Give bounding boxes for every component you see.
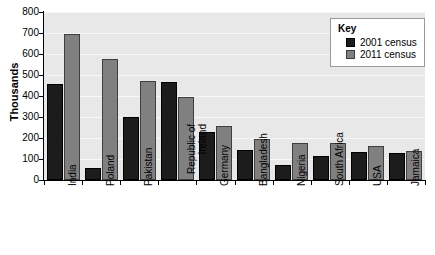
legend-swatch-icon-2001	[346, 38, 355, 47]
x-category-label: India	[67, 164, 78, 186]
bar-chart: Thousands 0100200300400500600700800 Indi…	[0, 0, 435, 255]
legend-swatch-icon-2011	[346, 50, 355, 59]
x-category-label: Germany	[219, 145, 230, 186]
bar	[313, 156, 329, 180]
bar	[85, 168, 101, 180]
x-tick-mark	[158, 181, 159, 185]
x-tick-mark	[425, 181, 426, 185]
legend-item-1: 2011 census	[346, 49, 418, 60]
x-tick-mark	[273, 181, 274, 185]
x-tick-mark	[311, 181, 312, 185]
bar	[123, 117, 139, 180]
x-tick-mark	[120, 181, 121, 185]
bar	[351, 152, 367, 180]
x-category-label: Pakistan	[143, 148, 154, 186]
y-tick-label: 500	[9, 70, 39, 80]
bar	[275, 165, 291, 180]
y-tick-label: 0	[9, 175, 39, 185]
y-tick-label: 700	[9, 28, 39, 38]
x-category-label: Republic of Ireland	[186, 124, 208, 186]
y-tick-label: 200	[9, 133, 39, 143]
x-category-label: South Africa	[334, 132, 345, 186]
y-tick-label: 600	[9, 49, 39, 59]
x-tick-mark	[387, 181, 388, 185]
y-tick-label: 800	[9, 7, 39, 17]
x-category-label: Poland	[105, 155, 116, 186]
x-tick-mark	[82, 181, 83, 185]
y-tick-label: 100	[9, 154, 39, 164]
bar	[47, 84, 63, 180]
x-tick-mark	[349, 181, 350, 185]
legend-label-2001: 2001 census	[360, 37, 417, 48]
x-tick-mark	[44, 181, 45, 185]
legend-item-0: 2001 census	[346, 37, 418, 48]
y-tick-label: 300	[9, 112, 39, 122]
bar	[389, 153, 405, 180]
y-tick-label: 400	[9, 91, 39, 101]
legend-label-2011: 2011 census	[360, 49, 416, 60]
x-tick-mark	[235, 181, 236, 185]
legend: Key 2001 census 2011 census	[330, 18, 425, 67]
bar	[64, 34, 80, 180]
x-category-label: Jamaica	[410, 149, 421, 186]
legend-title: Key	[338, 23, 418, 34]
bar	[237, 150, 253, 180]
bar	[161, 82, 177, 180]
x-category-label: USA	[372, 165, 383, 186]
x-category-label: Bangladesh	[258, 133, 269, 186]
x-category-label: Nigeria	[296, 154, 307, 186]
